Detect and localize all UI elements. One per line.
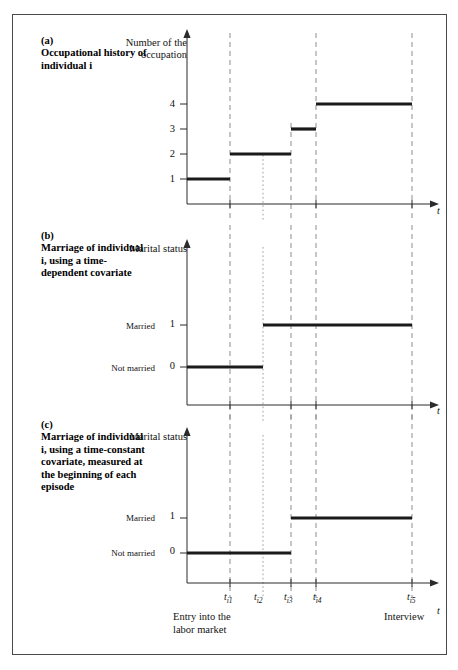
panel-c-y-axis-arrow <box>183 427 190 436</box>
figure-frame: (a) Occupational history of individual i… <box>12 14 447 655</box>
panel-c-x-axis-arrow <box>430 579 439 586</box>
xtick-label-ti4: ti4 <box>313 591 322 605</box>
annotation-interview: Interview <box>384 611 424 624</box>
panel-c-plot <box>13 15 448 656</box>
xtick-label-ti3: ti3 <box>284 591 293 605</box>
panel-c: (c) Marriage of individual i, using a ti… <box>13 15 446 654</box>
annotation-entry-line2: labor market <box>173 624 231 637</box>
xtick-label-ti2: ti2 <box>254 591 263 605</box>
annotation-entry: Entry into the labor market <box>173 611 231 636</box>
xtick-label-ti5: ti5 <box>407 591 416 605</box>
xtick-label-ti1: ti1 <box>224 591 233 605</box>
annotation-entry-line1: Entry into the <box>173 611 231 624</box>
